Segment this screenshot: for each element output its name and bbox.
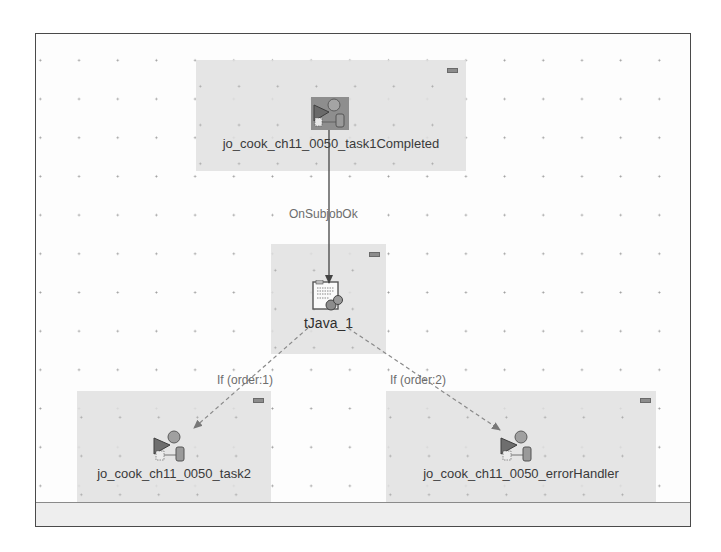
- subjob-label: jo_cook_ch11_0050_task2: [77, 466, 271, 481]
- component-label: tJava_1: [271, 315, 386, 331]
- if-order-1-label[interactable]: If (order:1): [217, 373, 273, 387]
- subjob-label: jo_cook_ch11_0050_task1Completed: [196, 136, 466, 151]
- subjob-tjava-1[interactable]: tJava_1: [271, 244, 386, 354]
- subjob-label: jo_cook_ch11_0050_errorHandler: [386, 466, 656, 481]
- if-order-2-label[interactable]: If (order:2): [390, 373, 446, 387]
- collapse-subjob-button[interactable]: [253, 398, 264, 403]
- run-job-icon[interactable]: [311, 97, 349, 130]
- run-job-icon[interactable]: [500, 429, 534, 463]
- tjava-component-icon[interactable]: [311, 280, 345, 313]
- collapse-subjob-button[interactable]: [447, 68, 458, 73]
- subjob-task2[interactable]: jo_cook_ch11_0050_task2: [77, 391, 271, 502]
- on-subjob-ok-label[interactable]: OnSubjobOk: [289, 207, 358, 221]
- subjob-task1-completed[interactable]: jo_cook_ch11_0050_task1Completed: [196, 60, 466, 171]
- collapse-subjob-button[interactable]: [640, 398, 651, 403]
- run-job-icon[interactable]: [153, 429, 187, 463]
- collapse-subjob-button[interactable]: [369, 252, 380, 257]
- canvas-bottom-bar: [36, 502, 690, 526]
- subjob-error-handler[interactable]: jo_cook_ch11_0050_errorHandler: [386, 391, 656, 502]
